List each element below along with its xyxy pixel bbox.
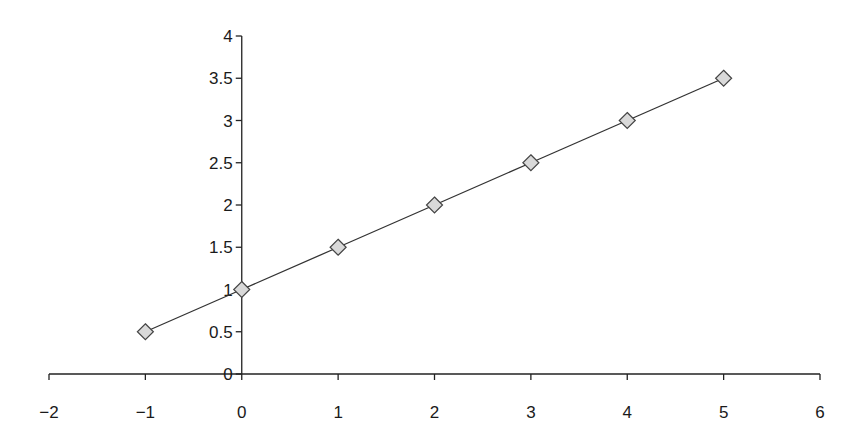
- x-tick-label: 6: [815, 403, 824, 422]
- diamond-marker: [716, 70, 732, 86]
- y-tick-label: 3.5: [209, 69, 233, 88]
- diamond-marker: [234, 282, 250, 298]
- diamond-marker: [523, 155, 539, 171]
- y-tick-label: 1.5: [209, 238, 233, 257]
- diamond-marker: [330, 239, 346, 255]
- x-tick-label: 3: [526, 403, 535, 422]
- x-tick-label: 2: [430, 403, 439, 422]
- diamond-marker: [427, 197, 443, 213]
- y-tick-label: 4: [223, 27, 232, 46]
- x-tick-label: −2: [39, 403, 58, 422]
- x-tick-label: 4: [623, 403, 632, 422]
- diamond-marker: [137, 324, 153, 340]
- x-tick-label: 1: [333, 403, 342, 422]
- diamond-marker: [619, 113, 635, 129]
- y-tick-label: 2.5: [209, 154, 233, 173]
- x-tick-label: 5: [719, 403, 728, 422]
- y-tick-label: 3: [223, 112, 232, 131]
- x-tick-label: 0: [237, 403, 246, 422]
- y-tick-label: 0.5: [209, 323, 233, 342]
- y-tick-label: 2: [223, 196, 232, 215]
- x-tick-label: −1: [136, 403, 155, 422]
- line-chart: −2−1012345600.511.522.533.54: [0, 0, 854, 446]
- y-tick-label: 0: [223, 365, 232, 384]
